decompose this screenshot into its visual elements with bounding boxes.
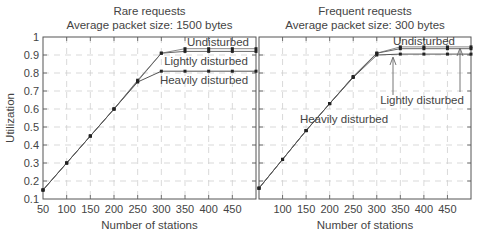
series-line <box>43 49 256 190</box>
y-tick-label: 0.2 <box>24 175 39 187</box>
x-tick-label: 200 <box>320 203 338 215</box>
x-tick-label: 450 <box>438 203 456 215</box>
x-axis-label: Number of stations <box>317 219 414 231</box>
chart-panel-1: 501001502002503003504004500.10.20.30.40.… <box>4 5 258 231</box>
data-point <box>207 50 210 53</box>
data-point <box>231 70 234 73</box>
annotation-lightly-disturbed: Lightly disturbed <box>164 55 248 67</box>
y-tick-label: 0.9 <box>24 49 39 61</box>
data-point <box>42 189 45 192</box>
data-point <box>136 81 139 84</box>
annotation-heavily-disturbed: Heavily disturbed <box>160 74 248 86</box>
data-point <box>281 158 284 161</box>
x-tick-label: 300 <box>152 203 170 215</box>
data-point <box>231 50 234 53</box>
data-point <box>255 50 258 53</box>
x-axis-label: Number of stations <box>101 219 198 231</box>
data-point <box>258 187 261 190</box>
data-point <box>470 47 473 50</box>
chart-title: Rare requests <box>113 5 185 17</box>
data-point <box>422 47 425 50</box>
y-tick-label: 1 <box>33 31 39 43</box>
data-point <box>328 102 331 105</box>
data-point <box>160 52 163 55</box>
data-point <box>184 50 187 53</box>
series-line <box>43 51 256 190</box>
data-point <box>160 70 163 73</box>
data-point <box>352 76 355 79</box>
x-tick-label: 100 <box>273 203 291 215</box>
chart-subtitle: Average packet size: 300 bytes <box>285 19 445 31</box>
y-tick-label: 0.3 <box>24 157 39 169</box>
chart-subtitle: Average packet size: 1500 bytes <box>66 19 232 31</box>
data-point <box>113 108 116 111</box>
chart-panel-2: 100150200250300350400450Frequent request… <box>258 5 473 231</box>
data-point <box>470 53 473 56</box>
data-point <box>446 53 449 56</box>
x-tick-label: 250 <box>344 203 362 215</box>
x-tick-label: 200 <box>105 203 123 215</box>
x-tick-label: 400 <box>199 203 217 215</box>
annotation-lightly-disturbed: Lightly disturbed <box>380 94 464 106</box>
y-tick-label: 0.8 <box>24 67 39 79</box>
x-tick-label: 150 <box>81 203 99 215</box>
x-tick-label: 150 <box>297 203 315 215</box>
chart-title: Frequent requests <box>318 5 412 17</box>
x-tick-label: 300 <box>368 203 386 215</box>
data-point <box>207 70 210 73</box>
data-point <box>305 129 308 132</box>
data-point <box>184 70 187 73</box>
annotation-heavily-disturbed: Heavily disturbed <box>300 113 388 125</box>
data-point <box>446 47 449 50</box>
x-tick-label: 100 <box>57 203 75 215</box>
y-tick-label: 0.6 <box>24 103 39 115</box>
utilization-charts: 501001502002503003504004500.10.20.30.40.… <box>0 0 479 234</box>
data-point <box>375 54 378 57</box>
x-tick-label: 400 <box>415 203 433 215</box>
annotation-undisturbed: Undisturbed <box>393 35 455 47</box>
y-tick-label: 0.1 <box>24 193 39 205</box>
data-point <box>65 162 68 165</box>
y-tick-label: 0.7 <box>24 85 39 97</box>
data-point <box>422 53 425 56</box>
x-tick-label: 250 <box>128 203 146 215</box>
y-tick-label: 0.5 <box>24 121 39 133</box>
data-point <box>89 135 92 138</box>
x-tick-label: 350 <box>391 203 409 215</box>
data-point <box>399 53 402 56</box>
y-tick-label: 0.4 <box>24 139 39 151</box>
y-axis-label: Utilization <box>4 93 16 143</box>
data-point <box>255 70 258 73</box>
annotation-undisturbed: Undisturbed <box>187 36 249 48</box>
data-point <box>399 47 402 50</box>
data-point <box>255 47 258 50</box>
x-tick-label: 450 <box>223 203 241 215</box>
series-line <box>43 71 256 190</box>
x-tick-label: 350 <box>176 203 194 215</box>
